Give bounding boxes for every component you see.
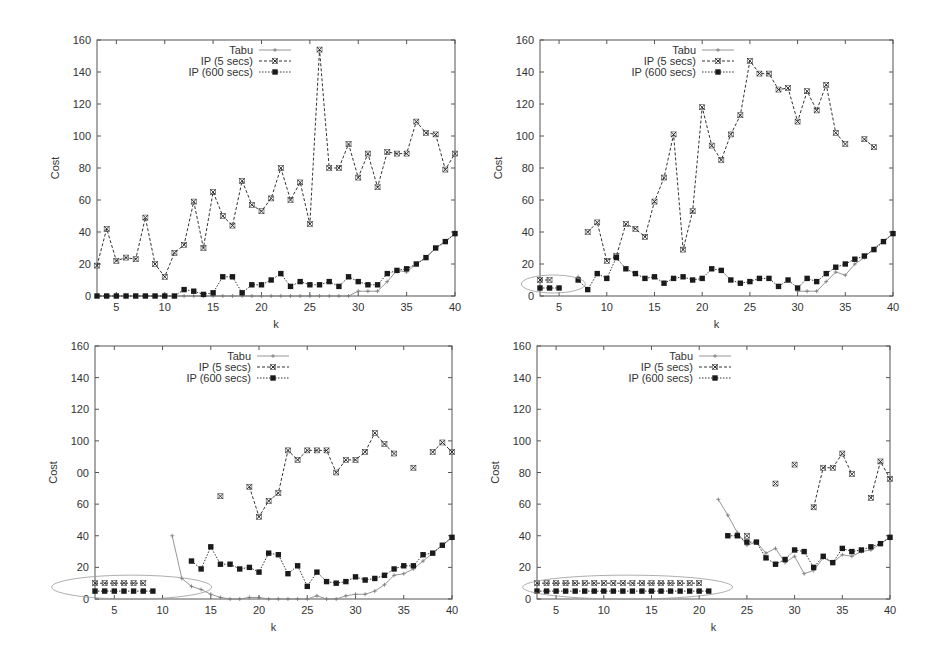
plot-svg: 020406000100120140160510152025303540kCos… xyxy=(0,325,470,659)
x-tick-label: 20 xyxy=(253,604,265,616)
legend: TabuIP (5 secs)IP (600 secs) xyxy=(628,350,731,384)
series-ip-5-secs- xyxy=(535,451,893,586)
y-tick-label: 20 xyxy=(522,258,534,270)
legend: TabuIP (5 secs)IP (600 secs) xyxy=(188,44,291,78)
series-line xyxy=(718,499,890,573)
x-tick-label: 40 xyxy=(449,301,461,313)
x-tick-label: 20 xyxy=(693,604,705,616)
y-tick-label: 0 xyxy=(525,593,531,605)
legend-label: IP (600 secs) xyxy=(188,66,253,78)
x-tick-label: 5 xyxy=(111,604,117,616)
y-axis-label: Cost xyxy=(492,157,504,180)
y-tick-label: 60 xyxy=(79,194,91,206)
series-tabu xyxy=(95,232,457,298)
legend-label: IP (600 secs) xyxy=(631,66,696,78)
y-tick-label: 60 xyxy=(519,498,531,510)
x-tick-label: 20 xyxy=(696,301,708,313)
series-ip-600-secs- xyxy=(94,231,457,299)
y-tick-label: 160 xyxy=(71,340,89,352)
y-tick-label: 100 xyxy=(71,435,89,447)
x-tick-label: 10 xyxy=(159,301,171,313)
x-tick-label: 5 xyxy=(553,604,559,616)
y-tick-label: 40 xyxy=(79,226,91,238)
x-tick-label: 15 xyxy=(648,301,660,313)
y-tick-label: 60 xyxy=(522,194,534,206)
y-tick-label: 100 xyxy=(73,130,91,142)
y-tick-label: 140 xyxy=(513,372,531,384)
x-tick-label: 30 xyxy=(349,604,361,616)
y-tick-label: 140 xyxy=(516,66,534,78)
x-tick-label: 25 xyxy=(741,604,753,616)
y-tick-label: 100 xyxy=(513,435,531,447)
y-tick-label: 60 xyxy=(77,498,89,510)
x-tick-label: 35 xyxy=(839,301,851,313)
highlight-ellipse xyxy=(52,575,212,599)
series-ip-600-secs- xyxy=(537,231,895,292)
x-tick-label: 30 xyxy=(788,604,800,616)
y-tick-label: 0 xyxy=(528,290,534,302)
x-axis-label: k xyxy=(271,621,277,633)
y-tick-label: 40 xyxy=(522,226,534,238)
y-tick-label: 140 xyxy=(73,66,91,78)
plot-svg: 020406080100120140160510152025303540kCos… xyxy=(470,0,939,330)
series-ip-5-secs- xyxy=(95,47,458,279)
plot-svg: 020406080100120140160510152025303540kCos… xyxy=(470,325,939,659)
chart-top-left: 020406080100120140160510152025303540kCos… xyxy=(0,0,470,330)
y-tick-label: 80 xyxy=(522,162,534,174)
y-axis-label: Cost xyxy=(49,157,61,180)
legend: TabuIP (5 secs)IP (600 secs) xyxy=(631,44,734,78)
y-tick-label: 100 xyxy=(516,130,534,142)
plot-frame xyxy=(540,40,893,296)
x-tick-label: 15 xyxy=(205,604,217,616)
legend: TabuIP (5 secs)IP (600 secs) xyxy=(186,350,289,384)
y-tick-label: 140 xyxy=(71,372,89,384)
y-tick-label: 20 xyxy=(79,258,91,270)
series-ip-5-secs- xyxy=(93,430,455,585)
y-tick-label: 40 xyxy=(519,530,531,542)
series-ip-5-secs- xyxy=(538,58,877,282)
y-axis-label: Cost xyxy=(47,461,59,484)
chart-bottom-right: 020406080100120140160510152025303540kCos… xyxy=(470,325,939,659)
x-tick-label: 15 xyxy=(207,301,219,313)
x-tick-label: 20 xyxy=(255,301,267,313)
x-tick-label: 35 xyxy=(400,301,412,313)
y-tick-label: 160 xyxy=(513,340,531,352)
plot-frame xyxy=(95,346,452,599)
x-tick-label: 25 xyxy=(301,604,313,616)
plot-frame xyxy=(97,40,455,296)
series-line xyxy=(871,461,890,497)
highlight-ellipse xyxy=(521,275,585,293)
series-line xyxy=(728,536,890,568)
legend-label: IP (600 secs) xyxy=(628,372,693,384)
y-tick-label: 0 xyxy=(85,290,91,302)
x-tick-label: 40 xyxy=(884,604,896,616)
y-tick-label: 120 xyxy=(73,98,91,110)
y-tick-label: 80 xyxy=(79,162,91,174)
y-tick-label: 40 xyxy=(77,530,89,542)
x-tick-label: 30 xyxy=(352,301,364,313)
y-tick-label: 120 xyxy=(513,403,531,415)
x-tick-label: 30 xyxy=(791,301,803,313)
y-tick-label: 20 xyxy=(519,561,531,573)
x-tick-label: 40 xyxy=(887,301,899,313)
chart-top-right: 020406080100120140160510152025303540kCos… xyxy=(470,0,939,330)
x-tick-label: 40 xyxy=(446,604,458,616)
series-ip-600-secs- xyxy=(92,535,454,594)
series-line xyxy=(249,433,394,517)
x-tick-label: 10 xyxy=(598,604,610,616)
y-tick-label: 20 xyxy=(77,561,89,573)
x-tick-label: 10 xyxy=(601,301,613,313)
x-tick-label: 15 xyxy=(645,604,657,616)
y-tick-label: 80 xyxy=(519,467,531,479)
series-line xyxy=(97,50,455,277)
plot-svg: 020406080100120140160510152025303540kCos… xyxy=(0,0,470,330)
x-axis-label: k xyxy=(711,621,717,633)
x-tick-label: 25 xyxy=(744,301,756,313)
x-tick-label: 25 xyxy=(304,301,316,313)
y-tick-label: 120 xyxy=(516,98,534,110)
highlight-ellipse xyxy=(523,575,733,599)
x-tick-label: 5 xyxy=(556,301,562,313)
x-tick-label: 35 xyxy=(398,604,410,616)
y-tick-label: 0 xyxy=(83,593,89,605)
legend-label: IP (600 secs) xyxy=(186,372,251,384)
